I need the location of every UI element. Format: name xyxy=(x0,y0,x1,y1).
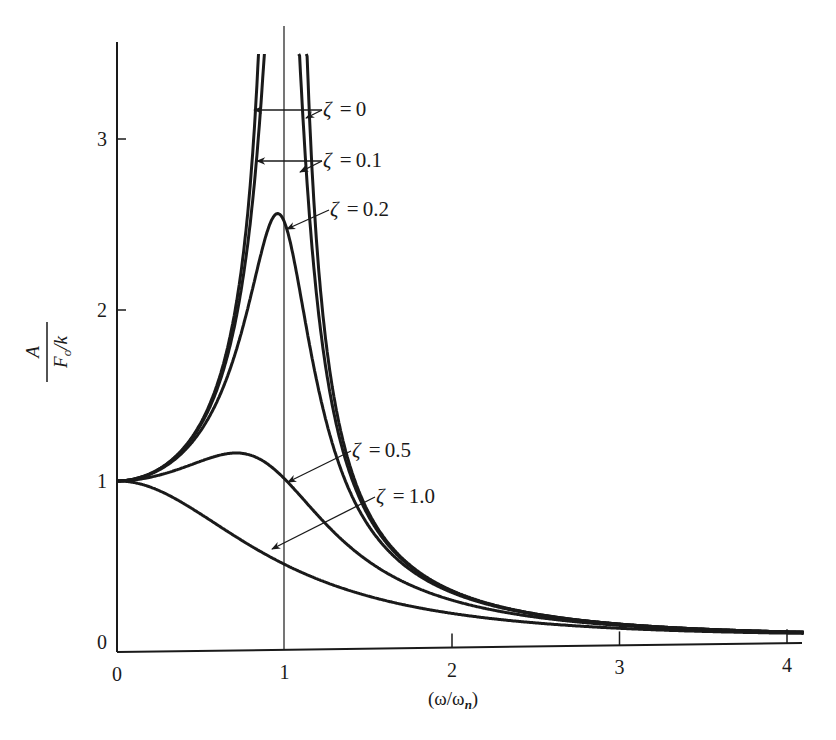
x-axis-label: (ω/ωn) xyxy=(428,688,478,712)
curve-zeta-0-5 xyxy=(117,453,804,633)
y-tick-label: 1 xyxy=(97,470,107,492)
curve-zeta-1 xyxy=(117,481,804,633)
frequency-response-chart: 012301234 A Fo/k (ω/ωn) ζ = 0ζ = 0.1ζ = … xyxy=(0,0,836,740)
annotation-label: ζ = 0 xyxy=(323,97,366,121)
y-label-denominator: Fo/k xyxy=(50,336,74,369)
y-tick-label: 0 xyxy=(97,631,107,653)
y-axis-label: A Fo/k xyxy=(22,322,74,382)
annotation-label: ζ = 0.2 xyxy=(330,197,389,221)
x-tick-label: 0 xyxy=(112,663,122,685)
curve-zeta-0 xyxy=(117,54,804,632)
annotation-arrow xyxy=(288,451,351,482)
x-tick-label: 1 xyxy=(280,661,290,683)
axis-ticks: 012301234 xyxy=(97,128,792,685)
curve-zeta-0-2 xyxy=(117,214,804,633)
annotation-label: ζ = 0.1 xyxy=(323,148,382,172)
x-tick-label: 4 xyxy=(782,654,792,676)
x-axis xyxy=(117,643,802,652)
y-tick-label: 3 xyxy=(97,128,107,150)
annotation-arrow xyxy=(272,497,375,549)
y-tick-label: 2 xyxy=(97,299,107,321)
x-tick-label: 3 xyxy=(615,656,625,678)
annotation-label: ζ = 0.5 xyxy=(352,438,411,462)
curve-zeta-0-1 xyxy=(117,54,804,632)
annotation-label: ζ = 1.0 xyxy=(376,484,435,508)
plot-area xyxy=(117,54,804,633)
y-label-numerator: A xyxy=(22,346,43,360)
x-tick-label: 2 xyxy=(447,659,457,681)
